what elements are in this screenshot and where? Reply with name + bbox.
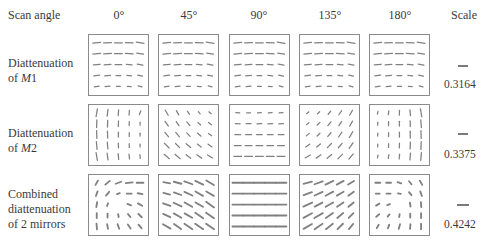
- panel-m1-45deg: [158, 34, 219, 96]
- row-label-line: of 2 mirrors: [8, 217, 71, 232]
- diattenuation-map: [159, 35, 218, 95]
- row-header-scan-angle: Scan angle: [8, 8, 60, 22]
- panel-m1-0deg: [88, 34, 149, 96]
- panel-m2-180deg: [369, 104, 430, 166]
- panel-m1-90deg: [229, 34, 290, 96]
- scale-value-m2: 0.3375: [444, 148, 476, 161]
- column-header-180: 180°: [389, 8, 412, 22]
- diattenuation-map: [89, 105, 148, 165]
- row-label-combined: Combined diattenuation of 2 mirrors: [8, 187, 71, 232]
- panel-combined-0deg: [88, 174, 149, 236]
- panel-m1-180deg: [369, 34, 430, 96]
- panel-combined-90deg: [229, 174, 290, 236]
- diattenuation-map: [300, 105, 359, 165]
- row-label-m2: Diattenuation of M2: [8, 126, 73, 156]
- diattenuation-map: [230, 35, 289, 95]
- diattenuation-map: [370, 35, 429, 95]
- panel-m2-0deg: [88, 104, 149, 166]
- panel-m1-135deg: [299, 34, 360, 96]
- panel-combined-180deg: [369, 174, 430, 236]
- panel-combined-45deg: [158, 174, 219, 236]
- diattenuation-map: [89, 35, 148, 95]
- column-header-scale: Scale: [451, 8, 477, 22]
- diattenuation-map: [89, 175, 148, 235]
- scale-bar-m2: [458, 133, 468, 135]
- panel-m2-90deg: [229, 104, 290, 166]
- diattenuation-map: [370, 175, 429, 235]
- diattenuation-map: [230, 105, 289, 165]
- diattenuation-map: [230, 175, 289, 235]
- diattenuation-map: [300, 35, 359, 95]
- scale-bar-combined: [457, 204, 469, 206]
- row-label-line: of M2: [8, 141, 73, 156]
- row-label-line: of M1: [8, 71, 73, 86]
- column-header-90: 90°: [251, 8, 268, 22]
- row-label-line: diattenuation: [8, 202, 71, 217]
- scale-bar-m1: [458, 65, 468, 67]
- row-label-line: Diattenuation: [8, 56, 73, 71]
- panel-m2-135deg: [299, 104, 360, 166]
- row-label-line: Combined: [8, 187, 71, 202]
- column-header-45: 45°: [181, 8, 198, 22]
- row-label-m1: Diattenuation of M1: [8, 56, 73, 86]
- diattenuation-map: [159, 175, 218, 235]
- scale-value-m1: 0.3164: [444, 78, 476, 91]
- panel-m2-45deg: [158, 104, 219, 166]
- column-header-135: 135°: [319, 8, 342, 22]
- diattenuation-map: [159, 105, 218, 165]
- panel-combined-135deg: [299, 174, 360, 236]
- diattenuation-map: [370, 105, 429, 165]
- scale-value-combined: 0.4242: [444, 218, 476, 231]
- column-header-0: 0°: [114, 8, 125, 22]
- row-label-line: Diattenuation: [8, 126, 73, 141]
- diattenuation-map: [300, 175, 359, 235]
